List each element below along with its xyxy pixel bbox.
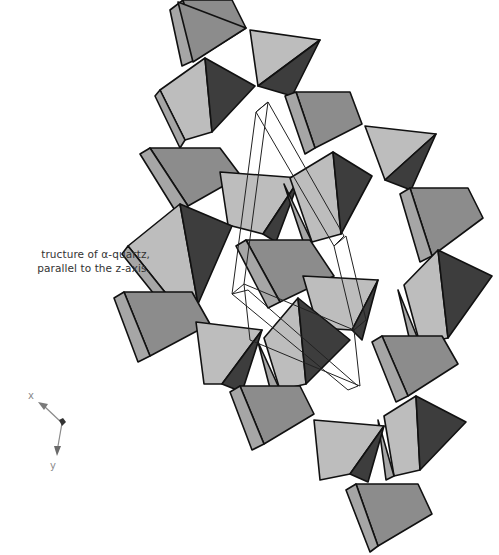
alpha-quartz-structure-diagram — [0, 0, 499, 555]
tetrahedron-t15 — [196, 322, 262, 392]
tetrahedron-t17 — [230, 386, 314, 450]
tetrahedron-face-light — [290, 152, 341, 242]
axis-indicator — [38, 402, 66, 456]
tetrahedron-face-light — [160, 58, 212, 140]
y-axis-arrow-shaft — [58, 423, 62, 446]
figure-caption: tructure of α-quartz, parallel to the z-… — [0, 247, 150, 275]
y-axis-arrowhead-icon — [54, 446, 61, 456]
tetrahedron-t11 — [398, 250, 492, 350]
y-axis-label: y — [50, 460, 56, 471]
tetrahedron-face-dark — [205, 58, 255, 132]
caption-line-2: parallel to the z-axis. — [0, 261, 150, 275]
tetrahedron-t16 — [372, 336, 458, 402]
sio4-tetrahedra-layer — [114, 0, 492, 552]
tetrahedron-t19 — [314, 420, 384, 482]
tetrahedron-t13 — [114, 292, 210, 362]
z-axis-origin-icon — [59, 418, 66, 426]
tetrahedron-t20 — [346, 484, 432, 552]
tetrahedron-t18 — [378, 396, 466, 480]
tetrahedron-t3 — [155, 58, 255, 148]
tetrahedron-face-dark — [416, 396, 466, 470]
tetrahedron-face-dark — [438, 250, 492, 338]
caption-line-1: tructure of α-quartz, — [0, 247, 150, 261]
tetrahedron-t6 — [220, 172, 300, 242]
x-axis-label: x — [28, 390, 34, 401]
